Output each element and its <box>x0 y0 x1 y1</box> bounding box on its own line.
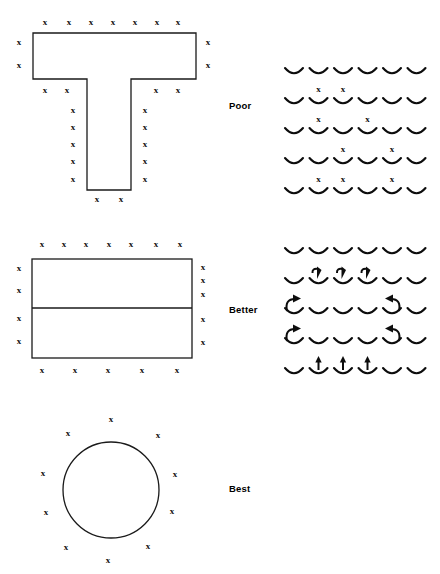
divided-rectangle-x-marker: x <box>17 313 22 323</box>
divided-rectangle-x-marker: x <box>17 263 22 273</box>
poor-x-marker: x <box>316 114 321 124</box>
t-section-x-marker: x <box>71 139 76 149</box>
divided-rectangle-x-marker: x <box>40 239 45 249</box>
t-section-x-marker: x <box>176 17 181 27</box>
arrow-curve-up-right-icon <box>287 295 301 312</box>
cup-symbol <box>310 158 328 163</box>
t-section-x-marker: x <box>155 17 160 27</box>
divided-rectangle-x-marker: x <box>17 336 22 346</box>
circle-x-marker: x <box>173 469 178 479</box>
cup-symbol <box>383 68 401 73</box>
poor-x-marker: x <box>390 144 395 154</box>
poor-x-marker: x <box>316 174 321 184</box>
cup-symbol <box>359 308 377 313</box>
circle-x-marker: x <box>106 555 111 565</box>
cup-symbol <box>383 368 401 373</box>
arrow-curve-up-right-icon <box>287 325 301 342</box>
cup-symbol <box>310 128 328 133</box>
divided-rectangle-x-marker: x <box>40 365 45 375</box>
divided-rectangle-x-marker: x <box>201 337 206 347</box>
divided-rectangle-x-marker: x <box>140 365 145 375</box>
cup-symbol <box>408 338 426 343</box>
t-section-x-marker: x <box>71 174 76 184</box>
cup-symbol <box>285 158 303 163</box>
cup-symbol <box>334 128 352 133</box>
row-label-best: Best <box>229 483 250 494</box>
cup-symbol <box>334 278 352 283</box>
divided-rectangle-x-marker: x <box>201 314 206 324</box>
cup-symbol <box>310 248 328 253</box>
cup-symbol <box>310 188 328 193</box>
row-label-better: Better <box>229 304 258 315</box>
poor-x-marker: x <box>341 144 346 154</box>
cup-symbol <box>334 188 352 193</box>
t-section-x-marker: x <box>89 17 94 27</box>
cup-symbol <box>383 98 401 103</box>
divided-rectangle-x-marker: x <box>107 239 112 249</box>
cup-symbol <box>334 158 352 163</box>
circle-x-marker: x <box>170 506 175 516</box>
arrow-down-hook-icon <box>337 267 346 280</box>
cup-symbol <box>285 368 303 373</box>
design-comparison-diagram: xxxxxxxxxxxxxxxxxxxxxxxxxxx xxxxxxxxx xx… <box>0 0 440 574</box>
divided-rectangle-x-marker: x <box>17 285 22 295</box>
arrow-up-icon <box>315 356 321 370</box>
divided-rectangle-shape-group: xxxxxxxxxxxxxxxxxxxxx <box>17 239 206 375</box>
cup-symbol <box>285 248 303 253</box>
cup-symbol <box>310 338 328 343</box>
t-section-x-marker: x <box>206 37 211 47</box>
poor-x-marker: x <box>316 84 321 94</box>
arrow-curve-up-left-icon <box>385 295 399 312</box>
cup-symbol <box>383 248 401 253</box>
t-section-shape-group: xxxxxxxxxxxxxxxxxxxxxxxxxxx <box>17 17 211 204</box>
cup-symbol <box>334 338 352 343</box>
cup-symbol <box>359 248 377 253</box>
arrow-up-icon <box>340 356 346 370</box>
t-section-x-marker: x <box>143 105 148 115</box>
diagram-canvas: xxxxxxxxxxxxxxxxxxxxxxxxxxx xxxxxxxxx xx… <box>0 0 440 574</box>
circle-x-markers: xxxxxxxxxx <box>41 414 178 565</box>
arrow-down-hook-icon <box>361 267 370 280</box>
t-section-x-marker: x <box>133 17 138 27</box>
cup-symbol <box>359 278 377 283</box>
circle-x-marker: x <box>146 541 151 551</box>
cup-symbol <box>285 128 303 133</box>
cup-symbol <box>383 158 401 163</box>
cup-symbol <box>310 98 328 103</box>
cup-symbol <box>310 308 328 313</box>
poor-x-marker: x <box>390 174 395 184</box>
t-section-x-marker: x <box>206 60 211 70</box>
divided-rectangle-x-marker: x <box>129 239 134 249</box>
better-cup-grid <box>285 248 426 373</box>
cup-symbol <box>408 278 426 283</box>
circle-x-marker: x <box>41 468 46 478</box>
cup-symbol <box>408 308 426 313</box>
divided-rectangle-x-marker: x <box>178 239 183 249</box>
t-section-x-marker: x <box>176 85 181 95</box>
cup-symbol <box>285 68 303 73</box>
cup-symbol <box>334 98 352 103</box>
cup-symbol <box>334 308 352 313</box>
cup-symbol <box>359 128 377 133</box>
t-section-x-marker: x <box>111 17 116 27</box>
t-section-x-marker: x <box>17 37 22 47</box>
t-section-x-marker: x <box>143 156 148 166</box>
circle-x-marker: x <box>156 430 161 440</box>
cup-symbol <box>359 98 377 103</box>
arrow-up-icon <box>364 356 370 370</box>
divided-rectangle-x-marker: x <box>73 365 78 375</box>
cup-symbol <box>334 248 352 253</box>
divided-rectangle-x-marker: x <box>201 275 206 285</box>
cup-symbol <box>383 278 401 283</box>
cup-symbol <box>408 68 426 73</box>
divided-rectangle-x-marker: x <box>175 365 180 375</box>
row-label-poor: Poor <box>229 100 251 111</box>
poor-x-marker: x <box>341 174 346 184</box>
t-section-x-marker: x <box>65 85 70 95</box>
t-section-x-marker: x <box>43 85 48 95</box>
t-section-x-marker: x <box>71 156 76 166</box>
divided-rectangle-x-marker: x <box>154 239 159 249</box>
t-section-x-marker: x <box>143 122 148 132</box>
cup-symbol <box>408 368 426 373</box>
cup-symbol <box>359 158 377 163</box>
